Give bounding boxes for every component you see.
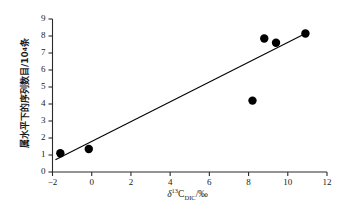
x-tick-label-2: 2: [119, 178, 143, 187]
x-tick-label-6: 6: [197, 178, 221, 187]
chart-figure: 属水平下的序列数目/104条 δ13CDIC/‰ −2024681012 012…: [0, 0, 345, 211]
x-tick-label--2: −2: [41, 178, 65, 187]
y-tick-label-4: 4: [32, 99, 46, 108]
y-tick-label-1: 1: [32, 150, 46, 159]
data-point-1: [85, 145, 93, 153]
x-tick-label-4: 4: [158, 178, 182, 187]
y-tick-label-6: 6: [32, 65, 46, 74]
x-tick-label-0: 0: [80, 178, 104, 187]
axis-lines: [53, 19, 328, 172]
x-tick-label-12: 12: [315, 178, 339, 187]
data-point-5: [301, 29, 309, 37]
y-tick-label-0: 0: [32, 167, 46, 176]
y-tick-label-5: 5: [32, 82, 46, 91]
x-tick-label-8: 8: [237, 178, 261, 187]
y-tick-label-2: 2: [32, 133, 46, 142]
y-tick-label-3: 3: [32, 116, 46, 125]
regression-line: [55, 33, 305, 159]
y-tick-label-9: 9: [32, 14, 46, 23]
x-tick-label-10: 10: [276, 178, 300, 187]
y-tick-label-7: 7: [32, 48, 46, 57]
y-tick-label-8: 8: [32, 31, 46, 40]
trend-line: [55, 33, 305, 159]
data-points: [56, 29, 309, 157]
data-point-3: [260, 34, 268, 42]
data-point-2: [248, 96, 256, 104]
x-axis-ticks: [53, 172, 328, 176]
data-point-4: [272, 39, 280, 47]
data-point-0: [56, 149, 64, 157]
y-axis-ticks: [49, 19, 53, 172]
